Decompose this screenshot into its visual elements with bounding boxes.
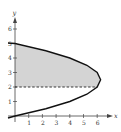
chart: 1 2 3 4 5 6 x 1 2 3 4 5 6 y: [0, 0, 121, 132]
x-tick-label: 1: [27, 119, 31, 126]
x-tick-label: 3: [55, 119, 59, 126]
x-tick-label: 5: [82, 119, 86, 126]
x-tick-label: 4: [68, 119, 72, 126]
x-tick-label: 6: [96, 119, 100, 126]
y-tick-label: 6: [8, 25, 12, 32]
y-axis-label: y: [12, 9, 17, 17]
y-axis-arrow-icon: [13, 17, 17, 23]
y-tick-label: 3: [8, 69, 12, 76]
y-tick-label: 4: [8, 54, 12, 61]
x-axis-arrow-icon: [107, 114, 113, 118]
x-axis-label: x: [114, 112, 118, 120]
y-tick-label: 2: [8, 83, 12, 90]
x-tick-label: 2: [41, 119, 45, 126]
y-tick-label: 1: [8, 98, 12, 105]
